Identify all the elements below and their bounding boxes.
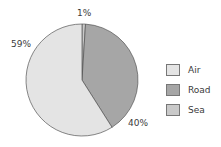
legend-item-sea: Sea xyxy=(166,100,211,120)
swatch-road xyxy=(166,84,180,96)
legend-label-sea: Sea xyxy=(188,105,205,115)
legend-item-road: Road xyxy=(166,80,211,100)
legend-item-air: Air xyxy=(166,60,211,80)
label-road: 40% xyxy=(128,118,148,128)
swatch-sea xyxy=(166,104,180,116)
swatch-air xyxy=(166,64,180,76)
label-air: 59% xyxy=(11,39,31,49)
legend-label-road: Road xyxy=(188,85,211,95)
legend: Air Road Sea xyxy=(166,60,211,120)
legend-label-air: Air xyxy=(188,65,200,75)
label-sea: 1% xyxy=(77,8,91,18)
